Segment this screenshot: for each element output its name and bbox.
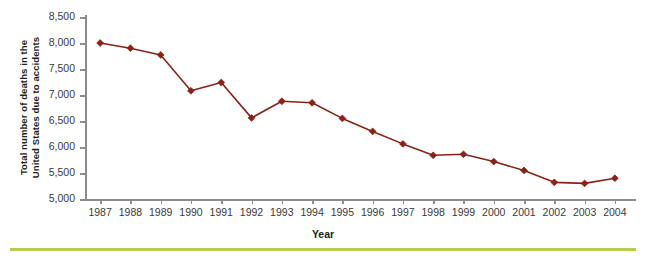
data-point-marker: 2000: 5720 [490, 158, 497, 165]
bottom-accent-rule [10, 248, 636, 251]
data-point-marker: 1988: 7900 [127, 45, 134, 52]
data-series-layer: 1987: 80001988: 79001989: 77701990: 7080… [0, 0, 646, 261]
data-point-marker: 1994: 6850 [309, 99, 316, 106]
accidental-deaths-line-chart: Total number of deaths in the United Sta… [0, 0, 646, 261]
data-point-marker: 1995: 6550 [339, 115, 346, 122]
series-line [100, 43, 615, 183]
data-point-marker: 1997: 6060 [400, 140, 407, 147]
data-point-marker: 2001: 5550 [521, 167, 528, 174]
data-point-marker: 1996: 6300 [369, 128, 376, 135]
data-point-marker: 1999: 5860 [460, 151, 467, 158]
x-axis-title: Year [0, 228, 646, 240]
data-point-marker: 2003: 5300 [581, 180, 588, 187]
data-point-marker: 2002: 5320 [551, 179, 558, 186]
data-point-marker: 1987: 8000 [97, 40, 104, 47]
data-point-marker: 2004: 5400 [611, 175, 618, 182]
data-point-marker: 1993: 6880 [278, 98, 285, 105]
data-point-marker: 1998: 5840 [430, 152, 437, 159]
